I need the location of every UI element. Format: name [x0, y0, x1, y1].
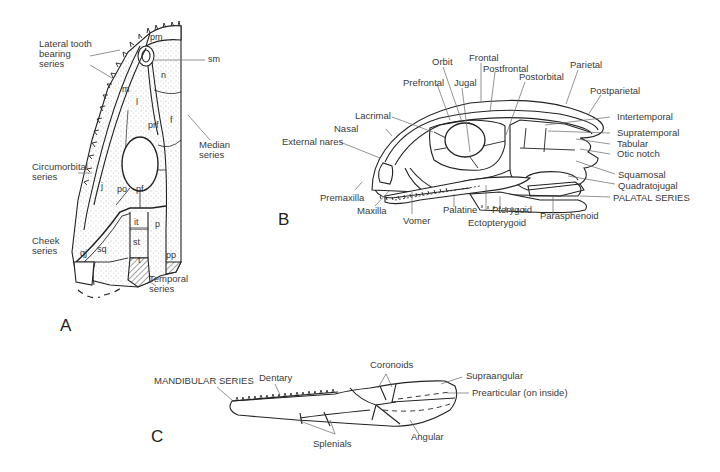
panel-label-a: A: [60, 316, 71, 336]
label-nasal: Nasal: [334, 124, 358, 134]
panel-label-c: C: [151, 427, 163, 447]
bone-n: n: [161, 70, 166, 80]
bone-pm: pm: [150, 32, 163, 42]
label-postorbital: Postorbital: [519, 72, 564, 82]
bone-pf: pf: [136, 184, 144, 194]
panel-b-skull: [372, 100, 603, 212]
label-otic-notch: Otic notch: [617, 149, 660, 159]
label-pterygoid: Pterygoid: [492, 205, 532, 215]
label-temporal-series: Temporal series: [149, 274, 188, 294]
bone-p: p: [155, 219, 160, 229]
label-median-series: Median series: [199, 140, 230, 160]
label-vomer: Vomer: [403, 216, 430, 226]
label-palatine: Palatine: [443, 205, 477, 215]
label-postparietal: Postparietal: [590, 86, 640, 96]
label-cheek-series: Cheek series: [32, 236, 59, 256]
label-frontal: Frontal: [469, 53, 499, 63]
bone-m: m: [122, 84, 130, 94]
label-premaxilla: Premaxilla: [320, 193, 364, 203]
bone-prf: prf: [148, 120, 159, 130]
bone-po: po: [117, 184, 127, 194]
label-jugal: Jugal: [454, 78, 477, 88]
bone-f: f: [170, 115, 173, 125]
panel-c-jaw: [230, 381, 457, 426]
label-angular: Angular: [411, 432, 444, 442]
label-intertemporal: Intertemporal: [617, 112, 673, 122]
bone-sq: sq: [97, 244, 107, 254]
bone-t: t: [138, 255, 141, 265]
label-prearticular: Prearticular (on inside): [472, 388, 568, 398]
label-external-nares: External nares: [282, 137, 343, 147]
label-circumorbital-series: Circumorbital series: [32, 162, 88, 182]
label-orbit: Orbit: [432, 57, 453, 67]
label-supratemporal: Supratemporal: [617, 128, 679, 138]
label-supraangular: Supraangular: [466, 371, 523, 381]
bone-pp: pp: [166, 250, 176, 260]
label-lacrimal: Lacrimal: [355, 111, 391, 121]
label-parietal: Parietal: [570, 60, 602, 70]
label-mandibular-series: MANDIBULAR SERIES: [154, 376, 254, 386]
label-prefrontal: Prefrontal: [403, 78, 444, 88]
bone-qj: qj: [80, 248, 87, 258]
label-lateral-tooth-bearing-series: Lateral tooth bearing series: [39, 39, 92, 69]
label-parasphenoid: Parasphenoid: [540, 211, 599, 221]
bone-it: it: [134, 217, 139, 227]
bone-l: l: [136, 97, 138, 107]
bone-j: j: [101, 181, 103, 191]
panel-label-b: B: [278, 210, 289, 230]
label-ectopterygoid: Ectopterygoid: [468, 218, 526, 228]
label-splenials: Splenials: [313, 439, 352, 449]
label-maxilla: Maxilla: [357, 206, 387, 216]
bone-sm: sm: [208, 54, 220, 64]
label-coronoids: Coronoids: [370, 360, 413, 370]
label-quadratojugal: Quadratojugal: [618, 181, 678, 191]
bone-st: st: [133, 237, 140, 247]
label-squamosal: Squamosal: [618, 170, 666, 180]
diagram-drawing: [0, 0, 720, 472]
label-palatal-series: PALATAL SERIES: [613, 193, 690, 203]
label-dentary: Dentary: [259, 373, 292, 383]
